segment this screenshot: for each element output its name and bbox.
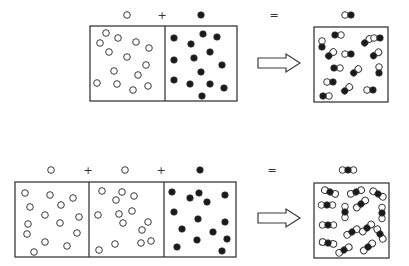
open-atom [76,214,83,221]
reaction-bottom: ++= [15,164,389,258]
diatomic-molecule [376,64,383,77]
open-atom [106,49,113,56]
triatomic-molecule [319,222,337,229]
diatomic-molecule [320,93,333,100]
triatomic-molecule [342,203,349,221]
filled-atom [171,35,178,42]
triatomic-molecule [343,225,362,240]
open-atom [319,38,326,45]
filled-atom [320,93,327,100]
open-atom [57,220,64,227]
filled-atom [370,87,377,94]
filled-atom [325,222,332,229]
open-atom [146,45,153,52]
filled-atom [345,167,352,174]
filled-atom [174,244,181,251]
reaction-arrow-icon [258,54,300,72]
label-filled-atom-icon [197,167,204,174]
open-atom [131,193,138,200]
open-atom [97,40,104,47]
filled-atom [198,69,205,76]
open-atom [337,65,344,72]
triatomic-molecule [379,204,386,222]
open-atom [47,192,54,199]
open-atom [42,239,49,246]
open-atom [119,189,126,196]
open-atom [376,64,383,71]
open-atom [138,240,145,247]
open-atom [115,35,122,42]
open-atom [99,188,106,195]
open-atom [114,81,121,88]
filled-atom [199,93,206,100]
filled-atom [187,81,194,88]
filled-atom [332,32,339,39]
filled-atom [204,199,211,206]
open-atom [42,212,49,219]
filled-atom [319,44,326,51]
triatomic-molecule [369,187,388,202]
open-atom [112,241,119,248]
open-atom [135,72,142,79]
label-filled-atom-icon [198,12,205,19]
diatomic-molecule [364,87,377,94]
open-atom [58,202,65,209]
open-atom [96,247,103,254]
open-atom [326,93,333,100]
triatomic-molecule [352,196,370,212]
equals-sign: = [269,9,278,22]
triatomic-molecule [373,225,388,244]
filled-atom [169,189,176,196]
filled-atom [224,236,231,243]
open-atom [124,54,131,61]
triatomic-molecule [359,239,377,255]
open-atom [25,221,32,228]
equals-sign: = [267,164,276,177]
open-atom [129,208,136,215]
filled-atom [379,210,386,217]
open-atom [113,197,120,204]
open-atom [103,30,110,37]
open-atom [342,12,349,19]
filled-atom [207,81,214,88]
diatomic-molecule [324,79,337,86]
plus-sign: + [156,164,165,177]
triatomic-molecule [318,202,336,209]
filled-atom [214,34,221,41]
filled-atom [187,195,194,202]
triatomic-molecule [358,220,376,236]
reaction-top: += [90,9,388,102]
diatomic-molecule [371,35,384,42]
label-open-atom-icon [122,167,129,174]
open-atom [364,87,371,94]
diatomic-molecule [342,12,355,19]
open-atom [64,243,71,250]
diatomic-molecule [324,47,338,60]
filled-atom [348,51,355,58]
open-atom [324,79,331,86]
open-atom [94,80,101,87]
label-open-atom-icon [48,167,55,174]
open-atom [22,190,29,197]
open-atom [95,212,102,219]
triatomic-molecule [347,186,366,198]
filled-atom [342,209,349,216]
filled-atom [171,77,178,84]
filled-atom [210,229,217,236]
open-atom [145,83,152,90]
triatomic-molecule [321,186,340,198]
open-atom [116,211,123,218]
diatomic-molecule [349,64,363,77]
filled-atom [179,226,186,233]
filled-atom [221,85,228,92]
open-atom [111,68,118,75]
diatomic-molecule [319,38,326,51]
label-open-atom-icon [124,12,131,19]
open-atom [27,204,34,211]
diatomic-molecule [342,51,355,58]
chemical-reaction-diagram: += ++= [0,0,409,266]
triatomic-molecule [335,243,354,258]
filled-atom [331,65,338,72]
filled-atom [171,209,178,216]
diatomic-molecule [332,32,345,39]
